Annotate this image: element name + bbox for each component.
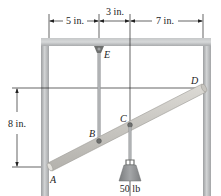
mechanics-diagram: 5 in. 3 in. 7 in. 8 in. E 50 lb A B C D (0, 0, 221, 196)
top-beam (41, 38, 211, 46)
point-E-label: E (103, 49, 110, 60)
dim-7in-label: 7 in. (156, 15, 174, 26)
point-C-label: C (120, 113, 127, 124)
point-B-label: B (89, 128, 95, 139)
point-D-label: D (190, 75, 199, 86)
dim-8in-label: 8 in. (8, 118, 26, 129)
dim-3in-label: 3 in. (106, 6, 124, 17)
dim-5in-label: 5 in. (66, 15, 84, 26)
pin-B (97, 139, 102, 144)
load-label: 50 lb (120, 183, 140, 194)
point-A-label: A (49, 174, 57, 185)
bar-AD (46, 83, 208, 172)
left-post (41, 38, 49, 196)
rod-EB (98, 50, 101, 141)
right-post (203, 38, 211, 196)
hanger-rod-C (129, 127, 131, 160)
pin-C (128, 123, 133, 128)
pin-support-E (94, 46, 104, 53)
